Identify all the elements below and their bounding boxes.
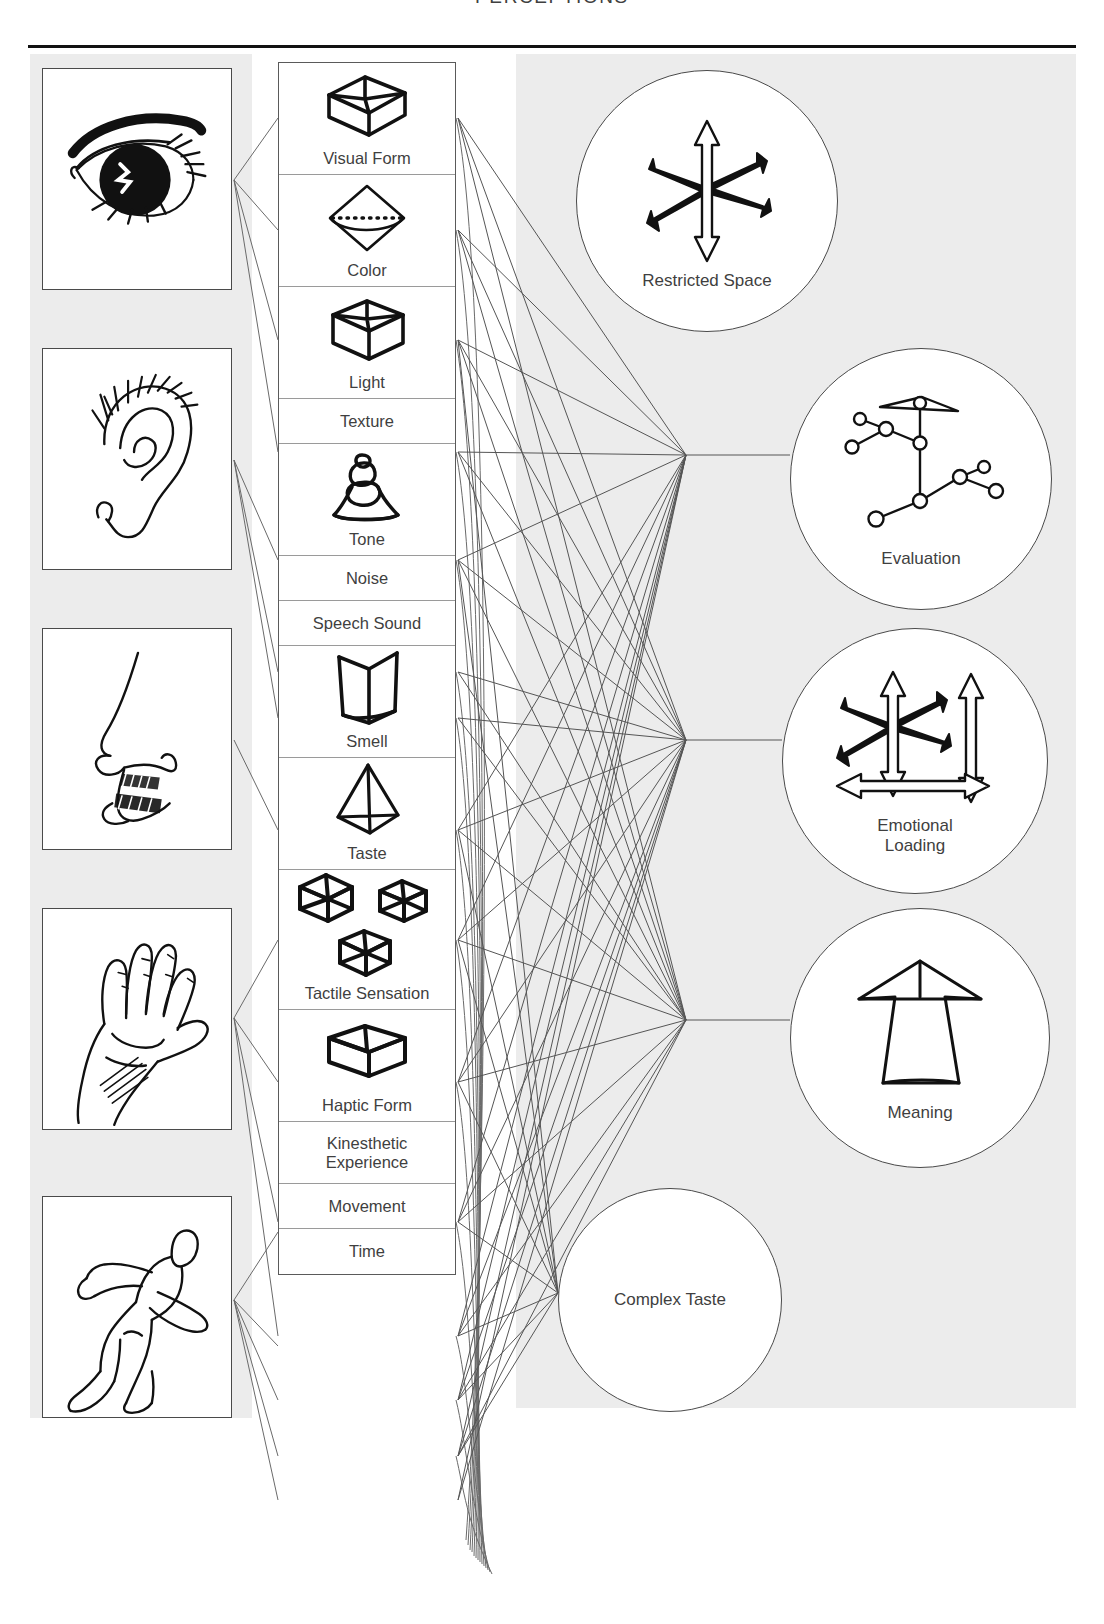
outcome-emotional-loading[interactable]: Emotional Loading <box>782 628 1048 894</box>
outcome-complex-taste[interactable]: Complex Taste <box>558 1188 782 1412</box>
perception-label: Color <box>347 261 386 280</box>
arrow-burst-axes-icon <box>825 666 1005 816</box>
perception-item-color[interactable]: Color <box>279 175 455 287</box>
outcome-evaluation[interactable]: Evaluation <box>790 348 1052 610</box>
outcome-label: Evaluation <box>881 549 960 569</box>
flat-cube-icon <box>279 1010 455 1096</box>
perception-label: Noise <box>346 569 388 588</box>
sense-organ-hand[interactable] <box>42 908 232 1130</box>
hand-drawing <box>43 909 231 1129</box>
perception-label: Taste <box>347 844 386 863</box>
perception-item-tactile-sensation[interactable]: Tactile Sensation <box>279 870 455 1010</box>
open-prism-icon <box>279 646 455 732</box>
bell-shape-icon <box>279 444 455 530</box>
perception-item-time[interactable]: Time <box>279 1229 455 1274</box>
sense-organ-body[interactable] <box>42 1196 232 1418</box>
perception-label: Texture <box>340 412 394 431</box>
perception-item-movement[interactable]: Movement <box>279 1184 455 1229</box>
outcome-label: Restricted Space <box>642 271 771 291</box>
three-cubes-icon <box>279 870 455 984</box>
perception-item-light[interactable]: Light <box>279 287 455 399</box>
node-network-icon <box>836 389 1006 549</box>
perception-item-taste[interactable]: Taste <box>279 758 455 870</box>
perception-item-haptic-form[interactable]: Haptic Form <box>279 1010 455 1122</box>
outcome-label: Emotional Loading <box>877 816 953 857</box>
perception-item-tone[interactable]: Tone <box>279 444 455 556</box>
perception-label: Time <box>349 1242 385 1261</box>
big-up-arrow-icon <box>845 953 995 1103</box>
page-title: PERCEPTIONS <box>0 0 1104 8</box>
running-figure-drawing <box>43 1197 231 1417</box>
sense-organ-ear[interactable] <box>42 348 232 570</box>
octahedron-dotted-icon <box>279 175 455 261</box>
outcome-restricted-space[interactable]: Restricted Space <box>576 70 838 332</box>
tetrahedron-icon <box>279 758 455 844</box>
perception-label: Haptic Form <box>322 1096 412 1115</box>
perception-list: Visual Form Color <box>278 62 456 1275</box>
perception-label: Tone <box>349 530 385 549</box>
perception-item-speech-sound[interactable]: Speech Sound <box>279 601 455 646</box>
outcome-label: Meaning <box>887 1103 952 1123</box>
nose-drawing <box>43 629 231 849</box>
perception-label: Tactile Sensation <box>305 984 430 1003</box>
perception-item-smell[interactable]: Smell <box>279 646 455 758</box>
wireframe-cube-icon <box>279 63 455 149</box>
ear-drawing <box>43 349 231 569</box>
multi-arrow-burst-icon <box>627 111 787 271</box>
header-rule <box>28 45 1076 48</box>
perception-item-noise[interactable]: Noise <box>279 556 455 601</box>
outcome-meaning[interactable]: Meaning <box>790 908 1050 1168</box>
perception-label: Kinesthetic Experience <box>326 1134 409 1172</box>
perception-item-texture[interactable]: Texture <box>279 399 455 444</box>
perception-item-visual-form[interactable]: Visual Form <box>279 63 455 175</box>
perception-label: Light <box>349 373 385 392</box>
outcome-label: Complex Taste <box>614 1290 726 1310</box>
sense-organ-eye[interactable] <box>42 68 232 290</box>
wireframe-box-icon <box>279 287 455 373</box>
perception-label: Visual Form <box>323 149 411 168</box>
perception-label: Speech Sound <box>313 614 421 633</box>
perception-label: Movement <box>328 1197 405 1216</box>
sense-organ-nose[interactable] <box>42 628 232 850</box>
perception-label: Smell <box>346 732 387 751</box>
perception-item-kinesthetic-experience[interactable]: Kinesthetic Experience <box>279 1122 455 1184</box>
eye-drawing <box>43 69 231 289</box>
diagram-canvas: PERCEPTIONS <box>0 0 1104 1624</box>
